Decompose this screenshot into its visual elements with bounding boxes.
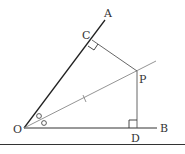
ray-OA — [24, 20, 105, 128]
bisector-OP — [24, 61, 156, 128]
right-angle-mark-C — [88, 44, 98, 50]
label-C: C — [82, 29, 90, 42]
label-A: A — [103, 7, 113, 20]
geometry-diagram: O A C P D B — [0, 0, 185, 154]
label-B: B — [160, 122, 168, 135]
label-O: O — [13, 123, 22, 136]
label-P: P — [139, 73, 147, 86]
angle-mark-circle-upper — [37, 114, 42, 119]
label-D: D — [131, 132, 140, 145]
right-angle-mark-D — [129, 120, 137, 128]
angle-mark-circle-lower — [42, 121, 47, 126]
segment-PC — [92, 40, 137, 71]
equal-tick-OP — [83, 95, 86, 102]
